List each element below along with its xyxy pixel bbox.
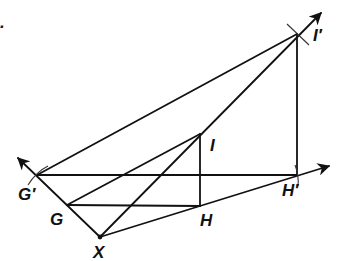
label-g: G — [50, 210, 63, 229]
homothety-diagram: . X G G′ H H′ I I′ — [0, 0, 337, 261]
segment-g-prime-i-prime — [37, 34, 297, 175]
label-i-prime: I′ — [313, 26, 323, 45]
label-h-prime: H′ — [282, 181, 299, 200]
point-x — [98, 235, 103, 240]
compass-arc-i-prime — [287, 24, 309, 45]
label-h: H — [200, 211, 213, 230]
label-g-prime: G′ — [18, 185, 36, 204]
figure-marker: . — [0, 13, 5, 32]
segment-g-i — [67, 134, 200, 205]
label-x: X — [92, 243, 106, 261]
label-i: I — [210, 136, 216, 155]
segment-g-h — [67, 205, 200, 206]
